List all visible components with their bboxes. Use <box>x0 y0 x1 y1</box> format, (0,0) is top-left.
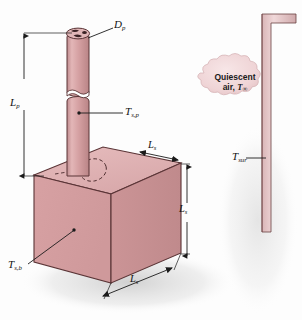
diagram-svg <box>0 0 302 320</box>
wall-shadow <box>218 125 298 315</box>
pin-fin <box>66 28 89 176</box>
label-pin-length: Lp <box>10 96 20 109</box>
label-pin-diameter: Dp <box>114 18 125 31</box>
label-base-surface-temp: Ts,b <box>8 258 22 271</box>
dimension-pin-length <box>24 33 72 176</box>
figure-canvas: Dp Lp Ts,p Ts,b Ls Ls Ls Tsur Quiescent … <box>0 0 302 320</box>
base-block <box>34 147 181 283</box>
label-base-side-top: Ls <box>148 139 156 151</box>
leader-pin-diameter <box>88 28 113 38</box>
label-base-side-bottom: Ls <box>130 273 138 285</box>
label-base-side-vertical: Ls <box>179 203 187 215</box>
quiescent-air-line2: air, T∞ <box>200 83 270 93</box>
label-pin-surface-temp: Ts,p <box>125 105 139 118</box>
quiescent-air-label: Quiescent air, T∞ <box>200 73 270 92</box>
label-surroundings-temp: Tsur <box>232 150 247 163</box>
